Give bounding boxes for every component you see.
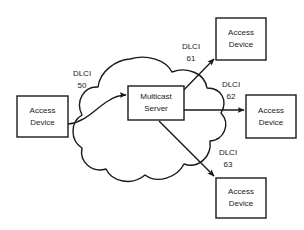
diagram-canvas: Access Device Multicast Server Access De… xyxy=(0,0,304,230)
label-dlci-63: DLCI 63 xyxy=(219,148,237,169)
dlci-63-value: 63 xyxy=(224,160,233,169)
access-device-61-label-line2: Device xyxy=(229,40,254,49)
multicast-server-label-line1: Multicast xyxy=(140,92,172,101)
dlci-62-value: 62 xyxy=(227,92,236,101)
multicast-server-label-line2: Server xyxy=(144,104,168,113)
node-source-access-device[interactable]: Access Device xyxy=(17,96,68,137)
dlci-50-value: 50 xyxy=(78,81,87,90)
label-dlci-62: DLCI 62 xyxy=(222,80,240,101)
dlci-61-value: 61 xyxy=(187,54,196,63)
dlci-62-protocol: DLCI xyxy=(222,80,240,89)
node-multicast-server[interactable]: Multicast Server xyxy=(128,86,184,120)
access-device-63-label-line1: Access xyxy=(228,187,254,196)
source-access-device-label-line2: Device xyxy=(30,118,55,127)
node-access-device-61[interactable]: Access Device xyxy=(216,18,266,60)
label-dlci-61: DLCI 61 xyxy=(182,42,200,63)
dlci-61-protocol: DLCI xyxy=(182,42,200,51)
source-access-device-label-line1: Access xyxy=(30,106,56,115)
node-access-device-63[interactable]: Access Device xyxy=(216,178,266,218)
dlci-63-protocol: DLCI xyxy=(219,148,237,157)
network-diagram: Access Device Multicast Server Access De… xyxy=(0,0,304,230)
access-device-62-label-line1: Access xyxy=(258,106,284,115)
label-dlci-50: DLCI 50 xyxy=(73,69,91,90)
access-device-63-label-line2: Device xyxy=(229,199,254,208)
access-device-61-label-line1: Access xyxy=(228,28,254,37)
node-access-device-62[interactable]: Access Device xyxy=(246,95,296,138)
access-device-62-label-line2: Device xyxy=(259,118,284,127)
dlci-50-protocol: DLCI xyxy=(73,69,91,78)
